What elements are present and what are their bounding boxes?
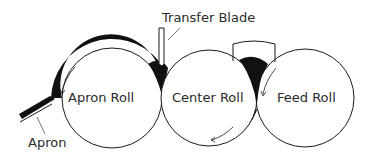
apron-leader xyxy=(37,117,45,134)
label-center-roll: Center Roll xyxy=(172,90,244,105)
roll-diagram: Transfer Blade Apron Roll Center Roll Fe… xyxy=(0,0,367,165)
label-feed-roll: Feed Roll xyxy=(277,90,336,105)
label-apron: Apron xyxy=(28,135,66,150)
transfer-blade xyxy=(159,28,164,66)
transfer-blade-leader xyxy=(168,28,180,40)
label-transfer-blade: Transfer Blade xyxy=(161,10,255,25)
label-apron-roll: Apron Roll xyxy=(68,90,134,105)
apron-belt xyxy=(19,96,55,119)
